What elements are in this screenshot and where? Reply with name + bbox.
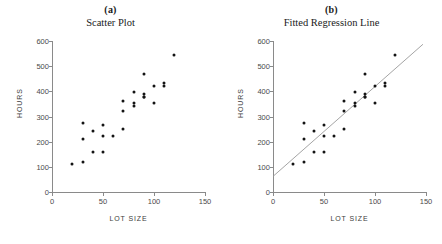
data-point — [312, 150, 315, 153]
y-tick — [49, 142, 53, 143]
data-point — [323, 151, 326, 154]
x-tick — [154, 192, 155, 196]
y-tick-label: 600 — [36, 37, 49, 46]
y-tick-label: 400 — [36, 87, 49, 96]
data-point — [132, 104, 135, 107]
data-point — [81, 122, 84, 125]
data-point — [363, 73, 366, 76]
x-tick — [205, 192, 206, 196]
plot-area-a: 0100200300400500600 050100150 — [52, 41, 205, 192]
data-point — [173, 53, 176, 56]
panel-b-header: (b) Fitted Regression Line — [221, 4, 442, 29]
panel-a-header: (a) Scatter Plot — [0, 4, 221, 29]
y-tick-label: 600 — [257, 37, 270, 46]
data-point — [384, 85, 387, 88]
data-point — [353, 104, 356, 107]
data-point — [91, 150, 94, 153]
panel-b-title: Fitted Regression Line — [221, 17, 442, 29]
x-tick-label: 0 — [271, 197, 275, 206]
x-tick-label: 150 — [199, 197, 212, 206]
x-tick — [426, 192, 427, 196]
data-point — [112, 134, 115, 137]
y-tick-label: 400 — [257, 87, 270, 96]
y-tick-label: 300 — [36, 112, 49, 121]
data-point — [394, 53, 397, 56]
data-point — [302, 122, 305, 125]
y-tick-label: 300 — [257, 112, 270, 121]
data-point — [333, 134, 336, 137]
panel-a-letter: (a) — [0, 4, 221, 16]
regression-line — [273, 41, 426, 192]
data-point — [292, 162, 295, 165]
data-point — [142, 96, 145, 99]
plot-area-b: 0100200300400500600 050100150 — [273, 41, 426, 192]
y-axis-title-b: HOURS — [237, 88, 244, 118]
data-point — [132, 90, 135, 93]
x-axis-title-b: LOT SIZE — [273, 215, 426, 222]
y-tick-label: 0 — [45, 188, 49, 197]
data-point — [81, 137, 84, 140]
data-point — [102, 123, 105, 126]
panel-a: (a) Scatter Plot 0100200300400500600 050… — [0, 0, 221, 244]
y-tick-label: 200 — [257, 137, 270, 146]
data-point — [153, 102, 156, 105]
y-tick — [49, 167, 53, 168]
data-point — [323, 123, 326, 126]
data-point — [353, 90, 356, 93]
y-tick-label: 200 — [36, 137, 49, 146]
x-tick — [375, 192, 376, 196]
x-tick-label: 150 — [420, 197, 433, 206]
data-point — [102, 135, 105, 138]
data-point — [122, 109, 125, 112]
data-point — [343, 127, 346, 130]
y-tick-label: 100 — [36, 162, 49, 171]
panel-a-title: Scatter Plot — [0, 17, 221, 29]
data-point — [163, 85, 166, 88]
data-point — [343, 109, 346, 112]
data-point — [312, 129, 315, 132]
y-axis-title-a: HOURS — [16, 88, 23, 118]
x-tick-label: 0 — [50, 197, 54, 206]
x-tick-label: 100 — [148, 197, 161, 206]
x-axis-title-a: LOT SIZE — [52, 215, 205, 222]
x-tick — [52, 192, 53, 196]
x-tick — [324, 192, 325, 196]
data-point — [363, 96, 366, 99]
data-point — [91, 129, 94, 132]
data-point — [71, 162, 74, 165]
y-tick-label: 500 — [36, 62, 49, 71]
x-tick — [273, 192, 274, 196]
data-point — [122, 127, 125, 130]
x-axis-b — [273, 192, 426, 193]
y-tick-label: 100 — [257, 162, 270, 171]
data-point — [323, 135, 326, 138]
panel-b: (b) Fitted Regression Line 0100200300400… — [221, 0, 442, 244]
y-tick — [49, 91, 53, 92]
data-point — [343, 100, 346, 103]
data-point — [374, 85, 377, 88]
data-point — [81, 160, 84, 163]
y-tick-label: 0 — [266, 188, 270, 197]
data-point — [142, 73, 145, 76]
x-axis-a — [52, 192, 205, 193]
panel-b-letter: (b) — [221, 4, 442, 16]
y-tick — [49, 66, 53, 67]
data-point — [302, 160, 305, 163]
data-point — [153, 85, 156, 88]
data-point — [122, 100, 125, 103]
figure-panels: (a) Scatter Plot 0100200300400500600 050… — [0, 0, 442, 244]
x-tick-label: 50 — [320, 197, 328, 206]
y-tick — [49, 41, 53, 42]
x-tick — [103, 192, 104, 196]
x-tick-label: 50 — [99, 197, 107, 206]
data-point — [302, 137, 305, 140]
data-point — [374, 102, 377, 105]
data-point — [102, 151, 105, 154]
x-tick-label: 100 — [369, 197, 382, 206]
y-tick — [49, 117, 53, 118]
y-tick-label: 500 — [257, 62, 270, 71]
